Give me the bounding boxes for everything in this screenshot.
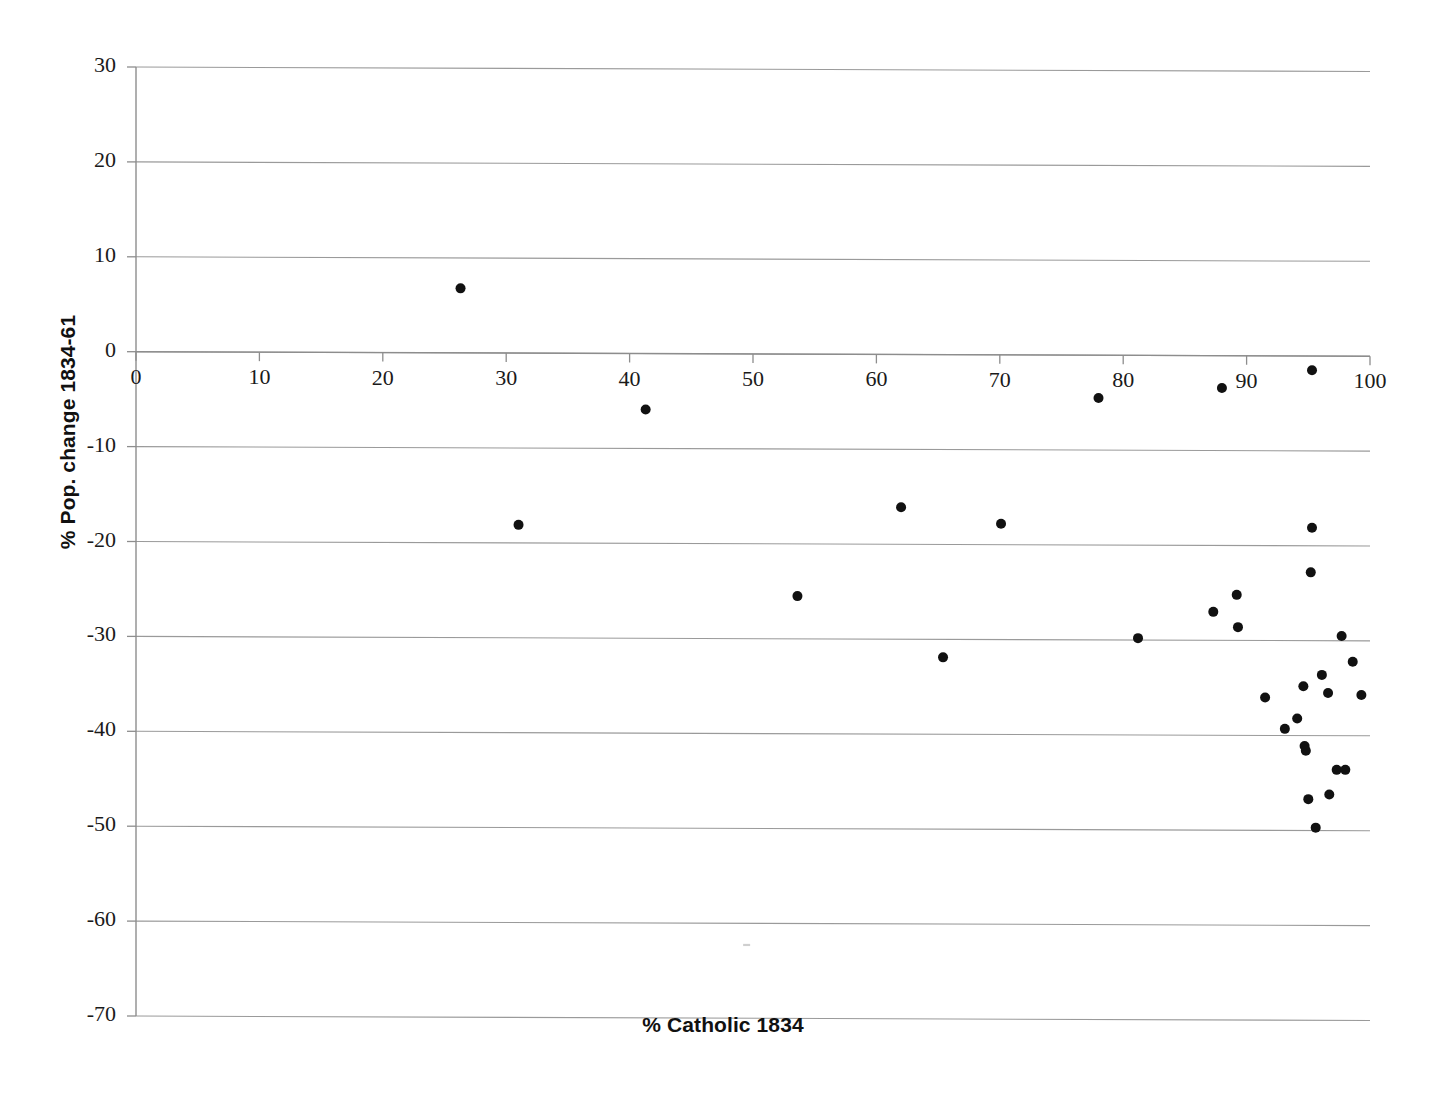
x-tick-label: 30 — [466, 365, 546, 391]
data-point — [1292, 713, 1302, 723]
x-tick-label: 0 — [96, 364, 176, 390]
plot-canvas — [0, 0, 1446, 1094]
y-tick-label: -60 — [26, 906, 116, 932]
data-point — [1340, 765, 1350, 775]
x-tick-label: 70 — [960, 367, 1040, 393]
x-axis-title: % Catholic 1834 — [0, 1013, 1446, 1037]
gridline-10 — [136, 257, 1370, 262]
data-point — [896, 502, 906, 512]
scan-artifact — [743, 944, 750, 946]
data-point — [792, 591, 802, 601]
x-tick-label: 10 — [219, 364, 299, 390]
data-point — [1337, 631, 1347, 641]
data-point — [996, 519, 1006, 529]
data-point — [1303, 794, 1313, 804]
data-point — [1208, 607, 1218, 617]
x-tick-label: 60 — [836, 366, 916, 392]
data-point — [1232, 590, 1242, 600]
gridline-20 — [136, 162, 1370, 167]
scatter-plot: % Pop. change 1834-61 % Catholic 1834 30… — [0, 0, 1446, 1094]
data-point — [1332, 765, 1342, 775]
data-point — [1307, 523, 1317, 533]
data-point — [1348, 657, 1358, 667]
gridline--50 — [136, 826, 1370, 831]
x-tick-label: 100 — [1330, 368, 1410, 394]
y-tick-label: -50 — [26, 811, 116, 837]
data-point — [641, 405, 651, 415]
y-tick-label: -70 — [26, 1001, 116, 1027]
x-tick-label: 80 — [1083, 367, 1163, 393]
x-tick-label: 40 — [590, 366, 670, 392]
data-point — [1324, 789, 1334, 799]
data-point — [1094, 393, 1104, 403]
gridline--10 — [136, 447, 1370, 452]
data-point — [456, 283, 466, 293]
x-tick-label: 50 — [713, 366, 793, 392]
gridline-30 — [136, 67, 1370, 72]
data-point — [1233, 622, 1243, 632]
data-point — [1356, 690, 1366, 700]
axes — [127, 67, 1370, 1016]
data-point — [1280, 724, 1290, 734]
y-tick-label: -20 — [26, 527, 116, 553]
data-point — [1311, 823, 1321, 833]
data-point — [514, 520, 524, 530]
data-point — [1306, 567, 1316, 577]
y-tick-label: -10 — [26, 432, 116, 458]
data-point — [1260, 692, 1270, 702]
x-tick-label: 20 — [343, 365, 423, 391]
y-tick-label: 0 — [26, 337, 116, 363]
gridline--40 — [136, 731, 1370, 736]
y-tick-label: 30 — [26, 52, 116, 78]
x-tick-label: 90 — [1207, 368, 1287, 394]
data-point — [1317, 670, 1327, 680]
gridline--30 — [136, 636, 1370, 641]
data-point — [1298, 681, 1308, 691]
data-point — [1133, 633, 1143, 643]
gridline--60 — [136, 921, 1370, 926]
data-point — [1307, 365, 1317, 375]
y-tick-label: 20 — [26, 147, 116, 173]
data-point — [1323, 688, 1333, 698]
data-point — [1301, 746, 1311, 756]
y-tick-label: -40 — [26, 716, 116, 742]
gridlines — [136, 67, 1370, 1021]
y-tick-label: -30 — [26, 621, 116, 647]
data-point — [938, 652, 948, 662]
gridline--20 — [136, 542, 1370, 547]
y-tick-label: 10 — [26, 242, 116, 268]
